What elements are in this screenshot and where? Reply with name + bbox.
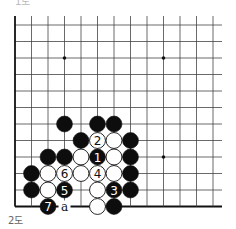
black-stone xyxy=(123,133,139,149)
black-stone xyxy=(123,166,139,182)
move-number: 3 xyxy=(110,184,118,198)
move-number: 7 xyxy=(44,200,52,214)
black-stone-move-7: 7 xyxy=(40,199,56,215)
white-stone-move-2: 2 xyxy=(90,133,106,149)
black-stone xyxy=(24,182,40,198)
white-stone-move-6: 6 xyxy=(57,166,73,182)
point-markers: a xyxy=(59,200,71,214)
move-number: 1 xyxy=(94,151,102,165)
black-stone xyxy=(90,116,106,132)
black-stone xyxy=(57,116,73,132)
black-stone xyxy=(123,182,139,198)
move-number: 5 xyxy=(61,184,69,198)
black-stone xyxy=(73,133,89,149)
black-stone-move-1: 1 xyxy=(90,149,106,165)
diagram-caption: 2도 xyxy=(8,212,22,227)
move-number: 6 xyxy=(61,167,69,181)
black-stone xyxy=(40,149,56,165)
white-stone xyxy=(106,133,122,149)
white-stone xyxy=(40,166,56,182)
white-stone xyxy=(73,166,89,182)
white-stone-move-4: 4 xyxy=(90,166,106,182)
star-point-icon xyxy=(162,155,166,159)
black-stone xyxy=(57,149,73,165)
point-label-a: a xyxy=(61,200,68,214)
white-stone xyxy=(73,149,89,165)
move-number: 4 xyxy=(94,167,102,181)
white-stone xyxy=(106,149,122,165)
white-stone xyxy=(90,182,106,198)
white-stone xyxy=(106,166,122,182)
star-point-icon xyxy=(162,56,166,60)
white-stone xyxy=(40,182,56,198)
move-number: 2 xyxy=(94,134,102,148)
go-board: a 2164537 xyxy=(0,0,236,229)
white-stone xyxy=(90,199,106,215)
black-stone xyxy=(106,116,122,132)
black-stone xyxy=(24,166,40,182)
star-point-icon xyxy=(63,56,67,60)
black-stone xyxy=(123,149,139,165)
black-stone xyxy=(106,199,122,215)
black-stone-move-3: 3 xyxy=(106,182,122,198)
black-stone-move-5: 5 xyxy=(57,182,73,198)
